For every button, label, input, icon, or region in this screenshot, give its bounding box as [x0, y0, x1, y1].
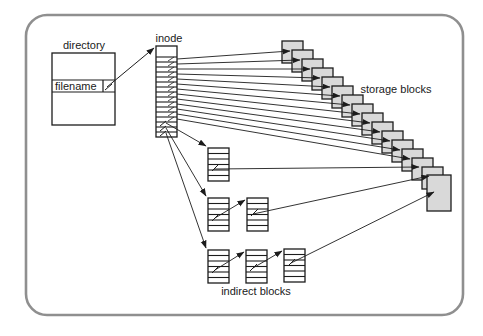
inode-label: inode [156, 32, 183, 44]
directory-label: directory [63, 39, 106, 51]
storage-block-large [427, 175, 451, 211]
diagram-canvas: directoryfilenameinodestorage blocksindi… [0, 0, 483, 336]
figure: directoryfilenameinodestorage blocksindi… [0, 0, 483, 336]
filename-label: filename [55, 80, 97, 92]
storage-blocks-label: storage blocks [361, 83, 432, 95]
indirect-blocks-label: indirect blocks [221, 285, 291, 297]
